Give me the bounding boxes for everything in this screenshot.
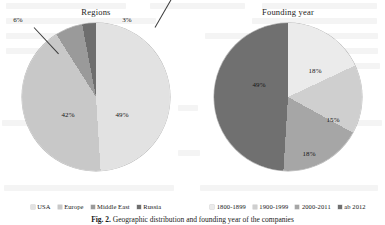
slice-label-europe: 42% xyxy=(61,111,74,119)
legend-item-europe[interactable]: Europe xyxy=(58,203,84,210)
legend-regions: USA Europe Middle East Russia xyxy=(0,203,192,210)
legend-swatch-icon xyxy=(91,205,95,209)
legend-label: 2000-2011 xyxy=(302,203,331,210)
legend-item-2000-2011[interactable]: 2000-2011 xyxy=(295,203,330,210)
slice-label-usa: 49% xyxy=(115,111,128,119)
slice-label-middle-east: 6% xyxy=(13,16,23,24)
legend-item-usa[interactable]: USA xyxy=(31,203,51,210)
chart-panel-regions: Regions 49% 42% 6% 3% USA Europe Mid xyxy=(0,0,192,200)
legend-label: Europe xyxy=(64,203,83,210)
chart-panel-founding-year: Founding year 18% 15% 18% 49% 1800-1899 … xyxy=(192,0,384,200)
legend-label: USA xyxy=(37,203,50,210)
legend-item-ab-2012[interactable]: ab 2012 xyxy=(338,203,366,210)
figure-caption-text: Geographic distribution and founding yea… xyxy=(113,215,294,224)
legend-label: 1900-1999 xyxy=(259,203,288,210)
legend-label: ab 2012 xyxy=(344,203,365,210)
legend-item-russia[interactable]: Russia xyxy=(137,203,161,210)
slice-label-1800-1899: 18% xyxy=(308,67,321,75)
slice-label-ab-2012: 49% xyxy=(252,81,265,89)
legend-swatch-icon xyxy=(210,205,214,209)
legend-item-1800-1899[interactable]: 1800-1899 xyxy=(210,203,246,210)
legend-swatch-icon xyxy=(338,205,342,209)
legend-swatch-icon xyxy=(58,205,62,209)
figure-two-pie-charts: Regions 49% 42% 6% 3% USA Europe Mid xyxy=(0,0,385,225)
slice-label-2000-2011: 18% xyxy=(302,150,315,158)
legend-label: Middle East xyxy=(97,203,130,210)
legend-swatch-icon xyxy=(253,205,257,209)
legend-label: 1800-1899 xyxy=(217,203,246,210)
legend-founding-year: 1800-1899 1900-1999 2000-2011 ab 2012 xyxy=(192,203,384,210)
slice-label-russia: 3% xyxy=(122,16,132,24)
legend-swatch-icon xyxy=(137,205,141,209)
pie-chart-regions: 49% 42% 6% 3% xyxy=(22,23,170,171)
pie-chart-founding-year: 18% 15% 18% 49% xyxy=(214,23,362,171)
legend-item-1900-1999[interactable]: 1900-1999 xyxy=(253,203,289,210)
legend-item-middle-east[interactable]: Middle East xyxy=(91,203,130,210)
legend-label: Russia xyxy=(143,203,161,210)
chart-title-founding-year: Founding year xyxy=(192,7,384,17)
figure-caption-number: Fig. 2. xyxy=(91,215,111,224)
figure-caption: Fig. 2. Geographic distribution and foun… xyxy=(0,215,385,224)
legend-swatch-icon xyxy=(295,205,299,209)
slice-label-1900-1999: 15% xyxy=(326,116,339,124)
legend-swatch-icon xyxy=(31,205,35,209)
